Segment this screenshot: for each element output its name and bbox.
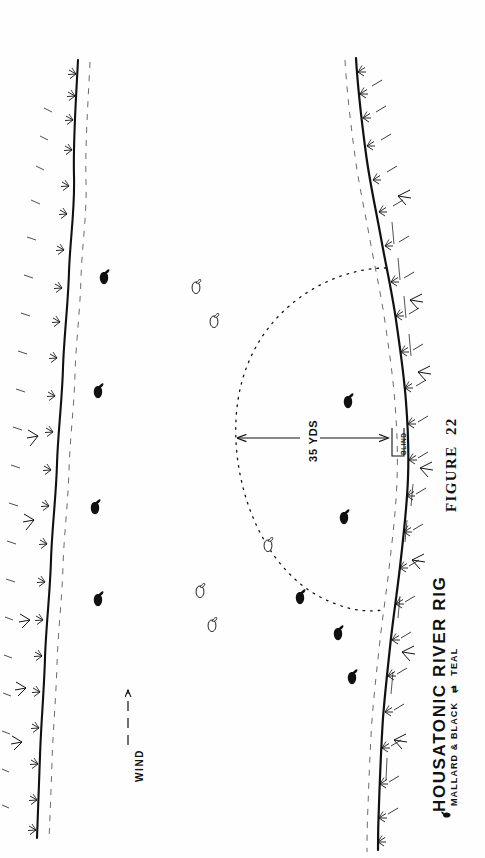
figure-title: HOUSATONIC RIVER RIG <box>430 576 450 812</box>
figure-caption: FIGURE 22 <box>443 417 460 512</box>
blind-label: BLIND <box>400 433 407 455</box>
figure-page: HOUSATONIC RIVER RIG MALLARD & BLACK ⇄ T… <box>0 0 485 858</box>
caption-label: FIGURE <box>443 445 459 512</box>
figure-drawing <box>0 0 485 858</box>
subtitle-species-primary: MALLARD & BLACK <box>449 702 459 806</box>
distance-label: 35 YDS <box>307 419 319 462</box>
figure-subtitle: MALLARD & BLACK ⇄ TEAL <box>449 648 459 806</box>
wind-label: WIND <box>134 749 145 782</box>
subtitle-species-secondary: TEAL <box>449 648 459 676</box>
subtitle-connector-icon: ⇄ <box>449 684 459 693</box>
caption-number: 22 <box>443 417 459 435</box>
